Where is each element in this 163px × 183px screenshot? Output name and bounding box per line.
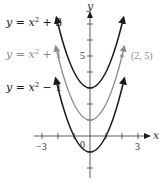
point-label: (2, 5): [131, 50, 153, 62]
y-tick-label-5: 5: [80, 50, 85, 61]
point-2-5: [120, 54, 124, 58]
x-axis: [34, 133, 151, 139]
equation-label-x2-plus-3: y = x2 + 3: [5, 16, 62, 29]
x-tick-label-3: 3: [135, 141, 140, 152]
x-axis-arrow-icon: [144, 133, 151, 139]
x-tick-label-neg3: −3: [36, 141, 47, 152]
equation-label-x2-plus-1: y = x2 + 1: [5, 48, 62, 61]
x-axis-label: x: [153, 129, 160, 142]
equation-label-x2-minus-1: y = x2 − 1: [5, 81, 62, 94]
y-axis: [87, 11, 93, 178]
origin-label: 0: [80, 139, 85, 150]
graph-canvas: y x −3 3 5 0 (2, 5) y = x2 + 3 y = x2 + …: [0, 0, 163, 183]
y-axis-label: y: [86, 0, 94, 13]
